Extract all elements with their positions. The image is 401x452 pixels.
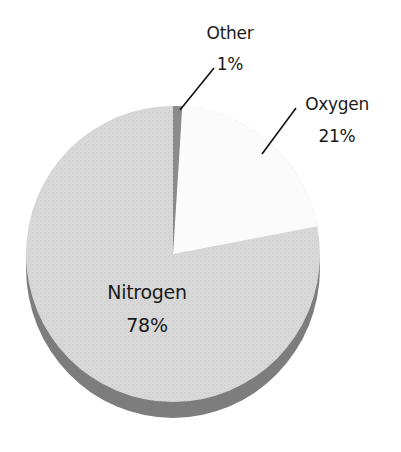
label-other: Other 1% [200,20,260,78]
label-nitrogen-pct: 78% [92,312,202,339]
label-nitrogen-name: Nitrogen [92,279,202,306]
label-nitrogen: Nitrogen 78% [92,279,202,339]
label-other-name: Other [200,20,260,47]
label-other-pct: 1% [200,51,260,78]
label-oxygen: Oxygen 21% [296,91,378,150]
leader-line-oxygen [262,108,296,154]
label-oxygen-name: Oxygen [296,91,378,118]
label-oxygen-pct: 21% [296,123,378,150]
